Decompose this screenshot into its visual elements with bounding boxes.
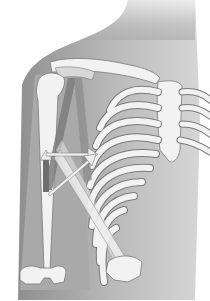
anatomy-illustration <box>0 0 210 301</box>
